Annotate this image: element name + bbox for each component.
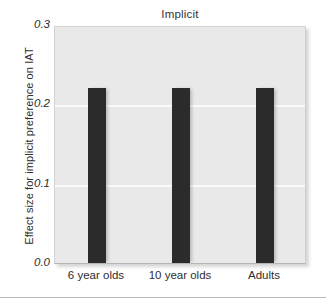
chart-figure: Implicit Effect size for implicit prefer… [0, 0, 326, 301]
bar [172, 88, 190, 263]
bar [88, 88, 106, 263]
y-axis-tick-labels: 0.00.10.20.3 [2, 0, 50, 301]
y-axis-tick-label: 0.2 [4, 97, 50, 109]
plot-area [54, 26, 306, 264]
plot-inner [55, 27, 305, 263]
x-axis-tick-label: 10 year olds [138, 269, 222, 281]
y-axis-tick-label: 0.0 [4, 256, 50, 268]
y-axis-tick-label: 0.1 [4, 177, 50, 189]
x-axis-tick-label: Adults [222, 269, 306, 281]
bar [256, 88, 274, 263]
chart-title: Implicit [54, 8, 306, 20]
page-bottom-rule [0, 297, 326, 298]
y-axis-tick-label: 0.3 [4, 18, 50, 30]
x-axis-tick-label: 6 year olds [54, 269, 138, 281]
